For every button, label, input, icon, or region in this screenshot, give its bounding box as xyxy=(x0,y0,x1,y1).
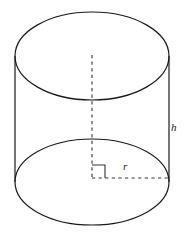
radius-label: r xyxy=(123,161,127,172)
bottom-circle-ellipse xyxy=(15,139,169,225)
cylinder-drawing xyxy=(0,0,185,237)
right-angle-marker xyxy=(92,165,105,178)
height-label: h xyxy=(171,122,177,133)
cylinder-figure: h r xyxy=(0,0,185,237)
